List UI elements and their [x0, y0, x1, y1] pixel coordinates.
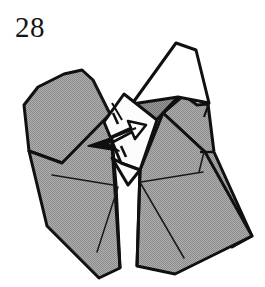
left-wing-group: [24, 70, 120, 278]
right-wing-group: [133, 83, 252, 274]
origami-step-figure: 28: [0, 0, 265, 287]
origami-model-illustration: [0, 0, 265, 287]
top-right-white-flap: [132, 43, 209, 104]
